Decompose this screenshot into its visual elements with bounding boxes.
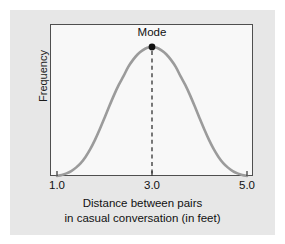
- y-axis-label: Frequency: [37, 21, 49, 131]
- mode-point-marker: [149, 44, 156, 51]
- mode-annotation-label: Mode: [138, 26, 167, 38]
- caption-line-1: Distance between pairs: [30, 196, 255, 211]
- x-axis-caption: Distance between pairs in casual convers…: [30, 196, 255, 225]
- x-tick-label-3: 5.0: [239, 179, 255, 191]
- figure-root: Frequency 1.0 3.0 5.0 Mode Distance betw…: [0, 0, 285, 244]
- caption-line-2: in casual conversation (in feet): [30, 211, 255, 226]
- x-axis-tick-marks: [57, 171, 247, 176]
- x-tick-label-1: 1.0: [49, 179, 65, 191]
- x-tick-label-2: 3.0: [144, 179, 160, 191]
- chart-canvas: [50, 24, 253, 176]
